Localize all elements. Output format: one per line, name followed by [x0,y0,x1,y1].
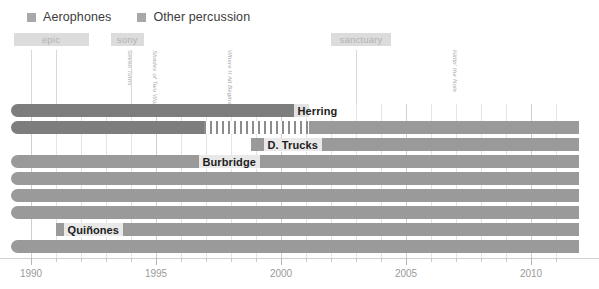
axis-tick-2006 [431,258,432,262]
bar-segment-row-6-0[interactable] [11,189,579,202]
axis-tick-1992 [81,258,82,262]
era-label: sanctuary [340,34,383,45]
bar-label-Quinones: Quiñones [64,223,124,237]
legend-swatch-icon [27,13,36,22]
timeline-row-row-5[interactable] [0,172,599,185]
axis-tick-2008 [481,258,482,262]
timeline-row-Herring[interactable]: Herring [0,104,599,117]
legend-swatch-icon [137,13,146,22]
timeline-row-Quinones[interactable]: Quiñones [0,223,599,236]
timeline-row-Haynes[interactable] [0,121,599,134]
legend-item-0[interactable]: Aerophones [27,10,111,24]
axis-tick-1991 [56,258,57,262]
event-line-0 [31,50,32,104]
era-label: sony [117,34,138,45]
bar-segment-Haynes-0[interactable] [11,121,204,134]
axis-tick-2007 [456,258,457,262]
era-band-epic[interactable]: epic [14,33,89,46]
axis-line [0,258,599,259]
axis-tick-label-2005: 2005 [395,268,417,279]
legend-item-1[interactable]: Other percussion [137,10,250,24]
axis-tick-1993 [106,258,107,262]
era-label: epic [42,34,60,45]
bar-segment-row-9-0[interactable] [11,240,579,253]
axis-tick-1997 [206,258,207,262]
axis-tick-2003 [356,258,357,262]
axis-tick-2002 [331,258,332,262]
bar-label-Herring: Herring [294,104,342,118]
axis-tick-2009 [506,258,507,262]
legend-label: Other percussion [153,10,250,24]
bar-segment-Burbridge-0[interactable] [11,155,579,168]
timeline-row-row-7[interactable] [0,206,599,219]
axis-tick-2000 [281,258,282,265]
axis-tick-label-2000: 2000 [270,268,292,279]
legend-label: Aerophones [43,10,111,24]
axis-tick-2005 [406,258,407,265]
legend: AerophonesOther percussion [0,6,276,28]
event-label-2: Where It All Begins [133,50,233,105]
era-band-sony[interactable]: sony [111,33,144,46]
axis-tick-2011 [556,258,557,262]
axis-tick-2010 [531,258,532,265]
axis-tick-1990 [31,258,32,265]
timeline-row-D. Trucks[interactable]: D. Trucks [0,138,599,151]
bar-segment-row-5-0[interactable] [11,172,579,185]
timeline-row-row-9[interactable] [0,240,599,253]
event-line-3 [356,50,357,104]
axis-tick-1999 [256,258,257,262]
axis-tick-1996 [181,258,182,262]
timeline-row-Burbridge[interactable]: Burbridge [0,155,599,168]
event-line-2 [131,50,132,104]
plot-area: HerringD. TrucksBurbridgeQuiñones [0,104,599,258]
timeline-chart: AerophonesOther percussion epicsonysanct… [0,0,599,289]
axis-tick-1994 [131,258,132,262]
axis-tick-2001 [306,258,307,262]
event-label-3: Hittin' the Note [358,50,458,92]
axis-tick-label-1995: 1995 [145,268,167,279]
event-line-1 [56,50,57,104]
bar-segment-Haynes-2[interactable] [309,121,579,134]
axis-tick-1998 [231,258,232,262]
bar-segment-row-7-0[interactable] [11,206,579,219]
axis-tick-2004 [381,258,382,262]
timeline-row-row-6[interactable] [0,189,599,202]
bar-segment-Quinones-0[interactable] [56,223,579,236]
era-band-sanctuary[interactable]: sanctuary [331,33,391,46]
axis-tick-label-1990: 1990 [20,268,42,279]
bar-label-D. Trucks: D. Trucks [264,138,322,152]
bar-segment-Herring-0[interactable] [11,104,309,117]
axis-tick-1995 [156,258,157,265]
bar-label-Burbridge: Burbridge [199,155,260,169]
bar-segment-Haynes-1[interactable] [204,121,309,134]
x-axis: 19901995200020052010 [0,258,599,289]
axis-tick-label-2010: 2010 [520,268,542,279]
